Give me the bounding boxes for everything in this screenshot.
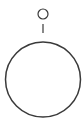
diagram-canvas [0, 0, 83, 120]
large-circle [6, 42, 81, 117]
small-circle [38, 9, 48, 19]
